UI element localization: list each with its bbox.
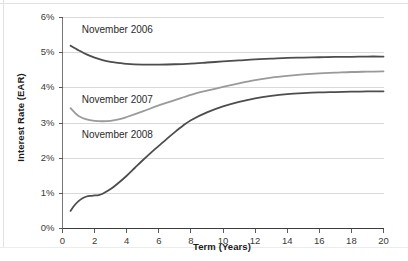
y-tick-label: 3% [29,117,55,128]
series-label-november-2007: November 2007 [82,94,153,105]
y-tick-label: 1% [29,187,55,198]
y-axis-title: Interest Rate (EAR) [15,58,26,178]
y-tick-label: 6% [29,11,55,22]
series-line-november-2006 [71,46,384,65]
gridlines [63,18,384,194]
y-tick-label: 0% [29,222,55,233]
y-tick-label: 5% [29,46,55,57]
x-tick-label: 6 [147,235,171,246]
y-tick-label: 4% [29,81,55,92]
x-tick-label: 12 [243,235,267,246]
line-chart-plot [0,0,408,261]
chart-figure: Interest Rate (EAR) Term (Years) 0%1%2%3… [0,0,408,261]
data-series [71,46,384,211]
x-tick-label: 4 [115,235,139,246]
x-tick-label: 20 [372,235,396,246]
series-label-november-2008: November 2008 [82,129,153,140]
x-tick-label: 8 [179,235,203,246]
y-tick-label: 2% [29,152,55,163]
x-tick-label: 16 [307,235,331,246]
x-tick-label: 10 [211,235,235,246]
x-tick-label: 0 [51,235,75,246]
x-tick-label: 14 [275,235,299,246]
x-tick-label: 2 [83,235,107,246]
series-label-november-2006: November 2006 [82,24,153,35]
x-tick-label: 18 [339,235,363,246]
